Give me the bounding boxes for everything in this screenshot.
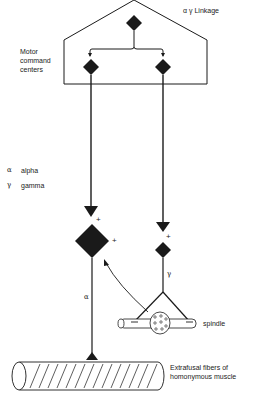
alpha-axon-label: α — [84, 293, 89, 301]
gamma-motor-neuron — [155, 242, 171, 258]
arrow-to-alpha-center — [88, 53, 92, 57]
legend-gamma-text: gamma — [21, 181, 44, 190]
extrafusal-label-2: homonymous muscle — [170, 372, 236, 381]
top-command-node — [126, 15, 142, 31]
alpha-feedback-excitatory-sign: + — [112, 236, 117, 245]
motor-command-label-1: Motor — [20, 47, 38, 56]
legend-alpha-text: alpha — [21, 166, 38, 175]
gamma-arrowhead — [156, 222, 170, 232]
legend-alpha-symbol: α — [7, 166, 12, 174]
linkage-title: α γ Linkage — [183, 6, 219, 15]
alpha-descending-excitatory-sign: + — [96, 215, 101, 224]
spindle-afferent-feedback — [106, 263, 148, 312]
extrafusal-label-1: Extrafusal fibers of — [170, 363, 228, 372]
spindle-label: spindle — [203, 319, 225, 328]
legend-gamma-symbol: γ — [7, 181, 11, 189]
alpha-motor-neuron — [75, 224, 109, 258]
motor-command-label-2: command — [20, 56, 51, 65]
gamma-command-node — [155, 59, 171, 75]
alpha-command-node — [83, 59, 99, 75]
extrafusal-muscle — [12, 362, 164, 390]
feedback-arrowhead — [104, 259, 109, 266]
motor-command-label-3: centers — [20, 65, 43, 74]
gamma-excitatory-sign: + — [166, 232, 171, 241]
arrow-to-gamma-center — [161, 53, 165, 57]
gamma-axon-label: γ — [167, 270, 171, 278]
alpha-endplate — [86, 352, 98, 360]
